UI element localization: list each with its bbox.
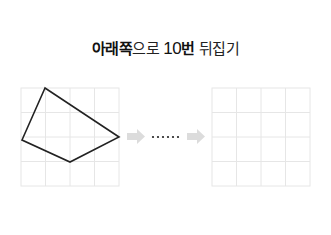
right-grid <box>212 88 310 186</box>
arrow-icon-1 <box>127 129 145 144</box>
diagram-canvas <box>0 0 331 235</box>
ellipsis-dots <box>152 136 179 138</box>
left-grid <box>21 88 119 186</box>
arrow-icon-2 <box>187 129 205 144</box>
